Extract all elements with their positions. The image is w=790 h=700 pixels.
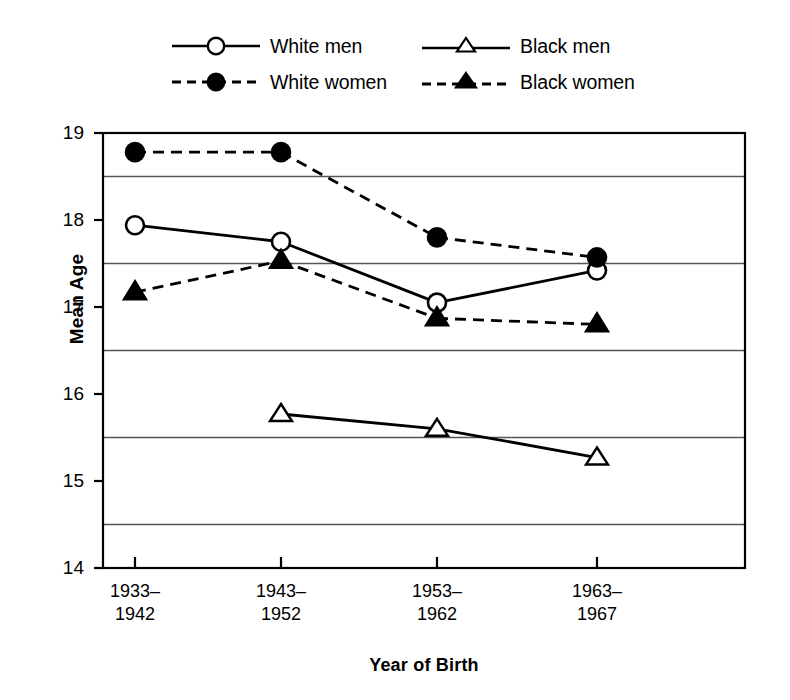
data-point-marker xyxy=(270,404,292,421)
data-point-marker xyxy=(588,248,606,266)
x-axis-tick-label-line: 1943– xyxy=(221,580,341,603)
data-point-marker xyxy=(272,143,290,161)
plot-area: Mean Age Year of Birth 141516171819 1933… xyxy=(0,0,790,700)
series-line xyxy=(135,225,281,242)
series-line xyxy=(437,429,597,458)
y-axis-tick-label: 15 xyxy=(38,471,84,490)
series-line xyxy=(437,318,597,324)
x-axis-tick-label-line: 1967 xyxy=(537,603,657,626)
y-axis-tick-label: 16 xyxy=(38,384,84,403)
x-axis-tick-label: 1943–1952 xyxy=(221,580,341,626)
series-line xyxy=(135,261,281,292)
y-axis-tick-label: 17 xyxy=(38,297,84,316)
series-line xyxy=(437,237,597,257)
x-axis-tick-label: 1953–1962 xyxy=(377,580,497,626)
data-point-marker xyxy=(426,307,448,325)
y-axis-tick-label: 14 xyxy=(38,558,84,577)
chart-figure: White men Black men White women xyxy=(0,0,790,700)
data-point-marker xyxy=(428,228,446,246)
y-axis-tick-label: 19 xyxy=(38,123,84,142)
series-line xyxy=(281,261,437,318)
x-axis-tick-label: 1933–1942 xyxy=(75,580,195,626)
x-axis-tick-label-line: 1953– xyxy=(377,580,497,603)
series-line xyxy=(281,414,437,429)
series-line xyxy=(281,152,437,237)
data-point-marker xyxy=(586,313,608,331)
data-point-marker xyxy=(126,216,144,234)
x-axis-tick-label-line: 1942 xyxy=(75,603,195,626)
x-axis-tick-label-line: 1963– xyxy=(537,580,657,603)
series-line xyxy=(437,270,597,302)
series-line xyxy=(281,242,437,303)
x-axis-tick-label: 1963–1967 xyxy=(537,580,657,626)
y-axis-tick-label: 18 xyxy=(38,210,84,229)
x-axis-tick-label-line: 1933– xyxy=(75,580,195,603)
data-point-marker xyxy=(270,250,292,268)
x-axis-tick-label-line: 1962 xyxy=(377,603,497,626)
x-axis-tick-label-line: 1952 xyxy=(221,603,341,626)
data-point-marker xyxy=(126,143,144,161)
